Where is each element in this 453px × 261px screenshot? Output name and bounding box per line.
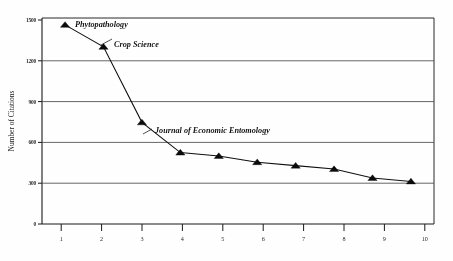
x-tick-3: 3	[140, 235, 143, 242]
x-tick-4: 4	[181, 235, 184, 242]
citations-line-chart: 0 300 600 900 1200 1500 Number of Citati…	[0, 0, 453, 261]
y-axis-title: Number of Citations	[7, 90, 16, 151]
x-tick-9: 9	[383, 235, 386, 242]
x-tick-6: 6	[262, 235, 265, 242]
x-tick-7: 7	[302, 235, 305, 242]
x-tick-2: 2	[100, 235, 103, 242]
y-tick-1500: 1500	[26, 17, 36, 23]
annotation-phytopathology: Phytopathology	[75, 20, 128, 29]
x-tick-10: 10	[422, 235, 428, 242]
y-tick-1200: 1200	[26, 58, 36, 64]
y-tick-600: 600	[29, 139, 37, 145]
x-tick-5: 5	[221, 235, 224, 242]
chart-canvas: 0 300 600 900 1200 1500 Number of Citati…	[0, 0, 453, 261]
annotation-journal-economic-entomology: Journal of Economic Entomology	[154, 126, 270, 135]
x-tick-1: 1	[60, 235, 63, 242]
x-tick-8: 8	[342, 235, 345, 242]
annotation-crop-science: Crop Science	[114, 40, 159, 49]
y-tick-900: 900	[29, 99, 37, 105]
y-tick-300: 300	[29, 180, 37, 186]
